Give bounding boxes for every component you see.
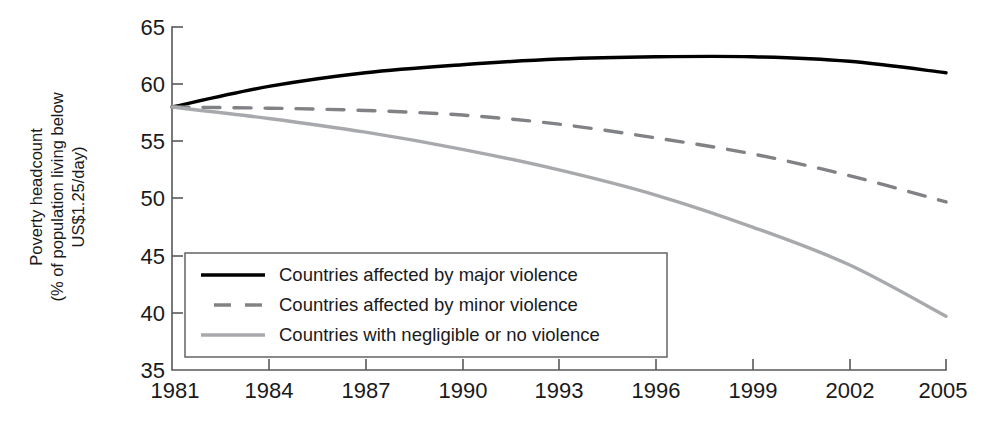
series-line-countries-affected-by-major-violence bbox=[172, 56, 946, 107]
x-tick-label: 1999 bbox=[729, 378, 778, 403]
y-axis-title-line-1: Poverty headcount bbox=[27, 128, 45, 266]
legend-label-no-violence: Countries with negligible or no violence bbox=[279, 324, 600, 345]
x-axis-tick-labels: 1981 1984 1987 1990 1993 1996 1999 2002 … bbox=[151, 378, 968, 403]
y-tick-label: 55 bbox=[141, 129, 165, 154]
legend-label-major-violence: Countries affected by major violence bbox=[279, 264, 578, 285]
y-tick-label: 40 bbox=[141, 301, 165, 326]
x-tick-label: 2005 bbox=[919, 378, 968, 403]
y-tick-label: 65 bbox=[141, 15, 165, 40]
x-tick-label: 1996 bbox=[632, 378, 681, 403]
x-tick-label: 1987 bbox=[342, 378, 391, 403]
chart-legend: Countries affected by major violence Cou… bbox=[185, 253, 667, 357]
x-axis-ticks bbox=[269, 359, 946, 370]
y-axis-title: Poverty headcount (% of population livin… bbox=[27, 92, 87, 301]
x-tick-label: 1993 bbox=[535, 378, 584, 403]
poverty-headcount-line-chart: Poverty headcount (% of population livin… bbox=[0, 0, 993, 433]
legend-label-minor-violence: Countries affected by minor violence bbox=[279, 294, 578, 315]
y-tick-label: 60 bbox=[141, 72, 165, 97]
y-axis-title-line-3: US$1.25/day) bbox=[69, 147, 87, 248]
x-tick-label: 1984 bbox=[245, 378, 294, 403]
x-tick-label: 1990 bbox=[439, 378, 488, 403]
y-axis-title-line-2: (% of population living below bbox=[48, 92, 66, 301]
y-tick-label: 45 bbox=[141, 244, 165, 269]
chart-figure: Poverty headcount (% of population livin… bbox=[0, 0, 993, 433]
x-tick-label: 2002 bbox=[826, 378, 875, 403]
x-tick-label: 1981 bbox=[151, 378, 200, 403]
y-axis-ticks bbox=[172, 27, 183, 313]
y-axis-tick-labels: 65 60 55 50 45 40 35 bbox=[141, 15, 165, 383]
y-tick-label: 50 bbox=[141, 186, 165, 211]
